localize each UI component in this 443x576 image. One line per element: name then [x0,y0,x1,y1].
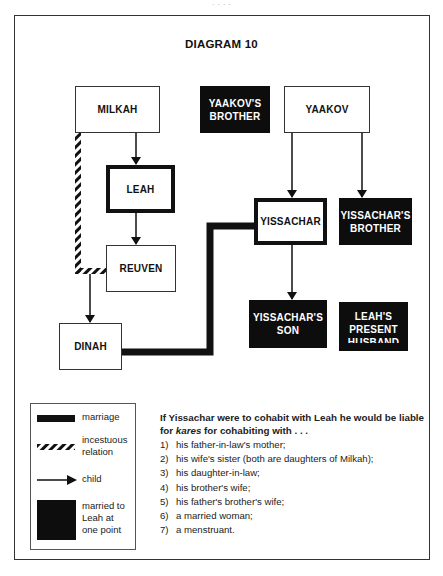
node-label: DINAH [74,340,107,353]
item-text: a menstruant. [176,524,235,535]
item-text: his father's brother's wife; [176,496,284,507]
notes-list-item: 4)his brother's wife; [160,481,425,495]
node-label-line: YISSACHAR'S [253,311,323,324]
item-text: his daughter-in-law; [176,467,260,478]
notes-lead: If Yissachar were to cohabit with Leah h… [160,412,425,437]
node-label-line: BROTHER [340,222,410,235]
item-number: 6) [160,509,176,523]
legend-label: incestuous relation [82,434,127,458]
marriage-swatch-icon [37,415,75,422]
node-milkah: MILKAH [75,86,160,133]
node-yissachars-son: YISSACHAR'S SON [249,300,327,348]
legend-label-line: incestuous [82,434,127,446]
notes-list-item: 7)a menstruant. [160,523,425,537]
node-yaakovs-brother: YAAKOV'S BROTHER [200,86,270,133]
node-dinah: DINAH [59,323,122,370]
item-number: 4) [160,481,176,495]
notes-lead-text: for cohabiting with . . . [201,425,308,436]
item-number: 1) [160,438,176,452]
legend-label-line: married to [82,500,125,512]
node-leahs-present-husband: LEAH'S PRESENT HUSBAND [339,302,408,351]
node-label-line: SON [253,324,323,337]
notes-lead-italic: kares [176,425,202,436]
arrow-icon [37,475,77,485]
node-yissachars-brother: YISSACHAR'S BROTHER [339,198,412,245]
notes-list-item: 6)a married woman; [160,509,425,523]
notes-list-item: 1)his father-in-law's mother; [160,438,425,452]
black-square-icon [37,500,76,540]
node-reuven: REUVEN [106,245,176,292]
node-label-line: YAAKOV'S [209,97,262,110]
node-leah: LEAH [106,165,175,213]
item-text: his wife's sister (both are daughters of… [176,453,374,464]
node-label-line: LEAH'S [348,310,399,323]
item-number: 3) [160,466,176,480]
legend: marriage incestuous relation child marri… [30,403,136,550]
notes-list-item: 2)his wife's sister (both are daughters … [160,452,425,466]
node-label: MILKAH [97,103,137,116]
explanation-notes: If Yissachar were to cohabit with Leah h… [160,412,425,537]
incestuous-relation-line [75,133,106,274]
node-label: YAAKOV [305,103,348,116]
item-number: 2) [160,452,176,466]
legend-label: married to Leah at one point [82,500,125,536]
node-label: LEAH [126,183,154,196]
legend-label-line: one point [82,524,125,536]
notes-list-item: 3)his daughter-in-law; [160,466,425,480]
legend-label: marriage [82,411,120,423]
item-number: 7) [160,523,176,537]
notes-list: 1)his father-in-law's mother; 2)his wife… [160,438,425,537]
item-text: his father-in-law's mother; [176,439,286,450]
node-label: YISSACHAR [260,215,321,228]
legend-label-line: Leah at [82,512,125,524]
item-text: a married woman; [176,510,253,521]
node-label-line: YISSACHAR'S [340,209,410,222]
node-yaakov: YAAKOV [284,86,370,133]
legend-label-line: relation [82,446,127,458]
node-label-line: BROTHER [209,110,262,123]
legend-label: child [82,473,102,485]
node-yissachar: YISSACHAR [254,198,327,245]
node-label-line-cut: HUSBAND [348,336,399,343]
item-number: 5) [160,495,176,509]
node-label-line: PRESENT [348,323,399,336]
notes-list-item: 5)his father's brother's wife; [160,495,425,509]
node-label: REUVEN [120,262,163,275]
hatched-swatch-icon [37,444,75,450]
item-text: his brother's wife; [176,482,250,493]
